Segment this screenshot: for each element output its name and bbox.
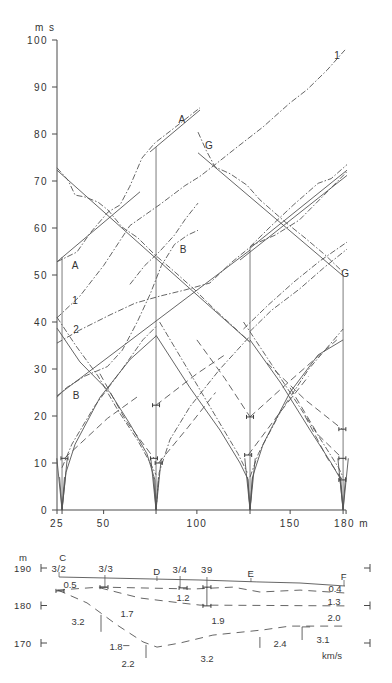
traveltime-plot: 01020304050607080901002550100150180 m AA… <box>0 0 392 683</box>
error-bar-mark <box>339 427 346 431</box>
y-tick-label: 50 <box>34 270 48 281</box>
curve-label: 1 <box>72 295 78 306</box>
traveltime-curve <box>156 336 250 510</box>
axes: 01020304050607080901002550100150180 m <box>27 35 369 530</box>
elevation-tick-right <box>364 564 370 572</box>
station-label-c: C <box>59 552 66 563</box>
y-tick-label: 0 <box>41 505 48 516</box>
y-tick-label: 60 <box>34 223 48 234</box>
traveltime-curve <box>240 175 347 260</box>
velocity-label: 2.4 <box>273 638 286 649</box>
elevation-tick-left <box>41 639 47 647</box>
x-tick-label: 100 <box>186 518 207 529</box>
curve-label: 2 <box>73 324 79 335</box>
x-tick-label: 150 <box>280 518 301 529</box>
velocity-label: 1.3 <box>327 596 340 607</box>
traveltime-curve <box>156 355 225 405</box>
traveltime-curve <box>250 165 347 247</box>
traveltime-curve <box>57 250 250 396</box>
elevation-tick-left <box>41 602 47 610</box>
traveltime-curve <box>248 376 309 455</box>
velocity-label: 0.5 <box>63 579 76 590</box>
error-bar-mark <box>245 453 252 457</box>
traveltime-curve <box>100 374 154 459</box>
traveltime-curve <box>250 340 343 510</box>
elevation-tick-right <box>364 639 370 647</box>
profile-line <box>302 627 310 640</box>
traveltime-curve <box>57 172 347 344</box>
velocity-unit-label: km/s <box>322 650 342 661</box>
velocity-label: 3.2 <box>200 653 213 664</box>
traveltime-curve <box>250 249 347 331</box>
velocity-label: 1.7 <box>120 608 133 619</box>
traveltime-curve <box>159 393 216 464</box>
station-code-3-3: 3/3 <box>98 563 113 574</box>
velocity-label: 1.9 <box>211 615 224 626</box>
profile-line <box>59 577 345 586</box>
x-tick-label: 180 m <box>334 518 369 529</box>
curve-label: G <box>205 140 213 151</box>
curve-label: B <box>73 390 80 401</box>
y-tick-label: 30 <box>34 364 48 375</box>
traveltime-curve <box>250 340 343 510</box>
curve-annotations: AAGGBB112 <box>72 50 349 402</box>
curve-label: B <box>180 244 187 255</box>
velocity-label: 1.2 <box>176 592 189 603</box>
y-axis-unit-label: m s <box>35 22 55 33</box>
traveltime-curve <box>160 322 248 472</box>
velocity-label: 2.0 <box>327 612 340 623</box>
traveltime-curve <box>305 416 342 480</box>
traveltime-curve <box>150 110 200 152</box>
velocity-label: 3.2 <box>71 616 84 627</box>
curve-label: G <box>341 268 349 279</box>
traveltime-curve <box>244 242 348 329</box>
curve-label: 1 <box>334 50 340 61</box>
traveltime-curve <box>198 132 343 272</box>
velocity-label: 2.2 <box>121 658 134 669</box>
velocity-label: 1.8 <box>109 641 122 652</box>
figure: 01020304050607080901002550100150180 m AA… <box>0 0 392 683</box>
station-code-3-2: 3/2 <box>51 563 66 574</box>
elevation-tick-left <box>41 564 47 572</box>
elevation-label-170: 170 <box>14 638 32 649</box>
y-tick-label: 70 <box>34 176 48 187</box>
elevation-label-180: 180 <box>14 600 32 611</box>
station-label-d: D <box>153 566 160 577</box>
traveltime-curve <box>57 230 198 397</box>
velocity-label: 3.1 <box>316 634 329 645</box>
x-tick-label: 50 <box>97 518 111 529</box>
y-tick-label: 20 <box>34 411 48 422</box>
traveltime-curve <box>57 170 250 342</box>
curve-label: A <box>179 114 186 125</box>
y-tick-label: 90 <box>34 82 48 93</box>
station-label-e: E <box>248 568 255 579</box>
y-tick-label: 80 <box>34 129 48 140</box>
traveltime-curves <box>57 50 348 510</box>
traveltime-curve <box>156 335 250 510</box>
y-tick-label: 10 <box>34 458 48 469</box>
traveltime-curve <box>197 340 250 417</box>
station-code-3-4: 3/4 <box>172 564 187 575</box>
elevation-tick-right <box>364 602 370 610</box>
x-tick-label: 25 <box>50 518 64 529</box>
traveltime-curve <box>57 108 200 262</box>
error-bar-mark <box>339 456 346 460</box>
station-code-39: 39 <box>201 564 213 575</box>
traveltime-curve <box>62 336 156 510</box>
elevation-label-190: 190 <box>14 563 32 574</box>
y-tick-label: 40 <box>34 317 48 328</box>
traveltime-curve <box>198 153 342 275</box>
y-tick-label: 100 <box>27 35 48 46</box>
curve-label: A <box>72 260 79 271</box>
profile-unit-label: m <box>19 552 28 563</box>
velocity-label: 0.4 <box>328 583 341 594</box>
station-label-f: F <box>341 571 347 582</box>
traveltime-curve <box>57 50 345 318</box>
